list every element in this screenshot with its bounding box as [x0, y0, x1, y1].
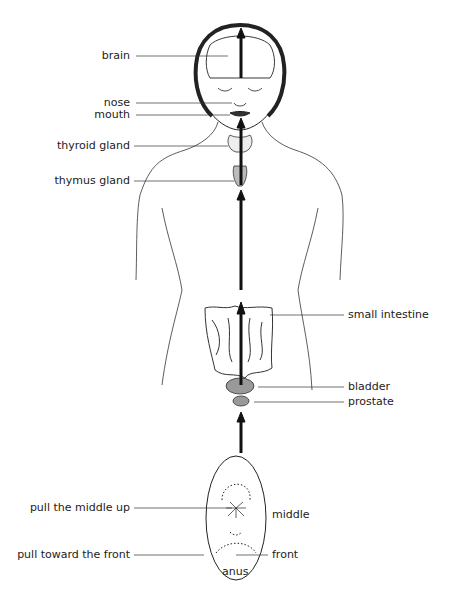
label-thymus-gland: thymus gland: [20, 175, 130, 187]
intestines: [205, 306, 273, 378]
label-pull-toward-front: pull toward the front: [0, 549, 130, 561]
perineum: [206, 456, 266, 580]
label-small-intestine: small intestine: [348, 309, 429, 321]
label-bladder: bladder: [348, 381, 390, 393]
anus-center-icon: [226, 502, 246, 518]
label-brain: brain: [60, 50, 130, 62]
label-middle: middle: [272, 509, 310, 521]
label-mouth: mouth: [60, 109, 130, 121]
label-front: front: [272, 549, 298, 561]
leader-lines: [134, 56, 344, 555]
label-thyroid-gland: thyroid gland: [20, 140, 130, 152]
label-prostate: prostate: [348, 396, 394, 408]
label-anus: anus: [222, 566, 248, 578]
label-pull-middle-up: pull the middle up: [0, 502, 130, 514]
body-diagram: [0, 0, 452, 606]
